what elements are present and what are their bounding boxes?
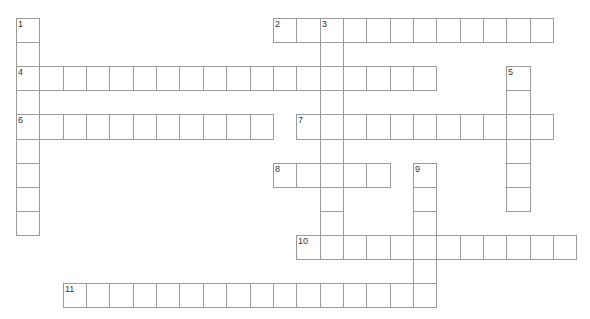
letter-input[interactable]	[344, 19, 366, 42]
letter-input[interactable]	[87, 284, 109, 307]
letter-input[interactable]	[251, 67, 273, 90]
crossword-cell[interactable]	[250, 114, 274, 140]
letter-input[interactable]	[180, 115, 203, 139]
letter-input[interactable]	[344, 67, 366, 90]
letter-input[interactable]	[531, 236, 553, 259]
crossword-cell[interactable]: 9	[413, 163, 437, 188]
letter-input[interactable]	[134, 284, 156, 307]
letter-input[interactable]	[274, 19, 296, 42]
crossword-cell[interactable]	[506, 90, 531, 115]
letter-input[interactable]	[367, 236, 390, 259]
crossword-cell[interactable]	[156, 114, 180, 140]
crossword-cell[interactable]	[250, 66, 274, 91]
letter-input[interactable]	[17, 19, 39, 42]
crossword-cell[interactable]	[86, 66, 110, 91]
letter-input[interactable]	[554, 236, 576, 259]
crossword-cell[interactable]	[390, 18, 414, 43]
crossword-cell[interactable]	[39, 66, 64, 91]
crossword-cell[interactable]	[16, 187, 40, 212]
letter-input[interactable]	[227, 67, 250, 90]
letter-input[interactable]	[507, 67, 530, 90]
letter-input[interactable]	[367, 67, 390, 90]
crossword-cell[interactable]	[436, 114, 461, 140]
letter-input[interactable]	[64, 115, 86, 139]
letter-input[interactable]	[414, 67, 436, 90]
crossword-cell[interactable]	[413, 66, 437, 91]
crossword-cell[interactable]	[320, 211, 344, 236]
letter-input[interactable]	[507, 91, 530, 114]
crossword-cell[interactable]	[226, 283, 251, 308]
crossword-cell[interactable]	[16, 139, 40, 164]
letter-input[interactable]	[251, 115, 273, 139]
letter-input[interactable]	[344, 236, 366, 259]
letter-input[interactable]	[344, 115, 366, 139]
letter-input[interactable]	[17, 43, 39, 66]
letter-input[interactable]	[134, 115, 156, 139]
crossword-cell[interactable]	[413, 211, 437, 236]
letter-input[interactable]	[17, 140, 39, 163]
crossword-cell[interactable]	[506, 187, 531, 212]
letter-input[interactable]	[297, 19, 320, 42]
crossword-cell[interactable]	[273, 66, 297, 91]
crossword-cell[interactable]	[133, 114, 157, 140]
crossword-cell[interactable]	[436, 235, 461, 260]
letter-input[interactable]	[17, 164, 39, 187]
crossword-cell[interactable]	[226, 66, 251, 91]
letter-input[interactable]	[437, 115, 460, 139]
crossword-cell[interactable]	[273, 283, 297, 308]
letter-input[interactable]	[297, 164, 320, 187]
crossword-cell[interactable]	[156, 283, 180, 308]
crossword-cell[interactable]	[203, 66, 227, 91]
crossword-cell[interactable]	[413, 259, 437, 284]
crossword-cell[interactable]	[343, 66, 367, 91]
letter-input[interactable]	[87, 67, 109, 90]
letter-input[interactable]	[507, 19, 530, 42]
letter-input[interactable]	[157, 67, 179, 90]
crossword-cell[interactable]	[436, 18, 461, 43]
letter-input[interactable]	[87, 115, 109, 139]
letter-input[interactable]	[321, 236, 343, 259]
letter-input[interactable]	[344, 164, 366, 187]
crossword-cell[interactable]	[320, 42, 344, 67]
crossword-cell[interactable]	[320, 187, 344, 212]
letter-input[interactable]	[110, 115, 133, 139]
crossword-cell[interactable]	[483, 18, 507, 43]
crossword-cell[interactable]	[296, 18, 321, 43]
letter-input[interactable]	[414, 212, 436, 235]
letter-input[interactable]	[391, 236, 413, 259]
letter-input[interactable]	[461, 19, 483, 42]
letter-input[interactable]	[414, 164, 436, 187]
crossword-cell[interactable]	[413, 114, 437, 140]
letter-input[interactable]	[321, 91, 343, 114]
letter-input[interactable]	[507, 188, 530, 211]
crossword-cell[interactable]	[553, 235, 577, 260]
crossword-cell[interactable]	[133, 66, 157, 91]
crossword-cell[interactable]	[390, 114, 414, 140]
letter-input[interactable]	[17, 91, 39, 114]
crossword-cell[interactable]	[39, 114, 64, 140]
letter-input[interactable]	[321, 67, 343, 90]
letter-input[interactable]	[507, 236, 530, 259]
letter-input[interactable]	[321, 115, 343, 139]
letter-input[interactable]	[227, 115, 250, 139]
letter-input[interactable]	[367, 284, 390, 307]
letter-input[interactable]	[321, 284, 343, 307]
letter-input[interactable]	[297, 284, 320, 307]
crossword-cell[interactable]	[343, 163, 367, 188]
crossword-cell[interactable]	[343, 18, 367, 43]
crossword-cell[interactable]	[320, 114, 344, 140]
crossword-cell[interactable]	[179, 283, 204, 308]
crossword-cell[interactable]	[506, 114, 531, 140]
letter-input[interactable]	[17, 188, 39, 211]
crossword-cell[interactable]	[109, 66, 134, 91]
crossword-cell[interactable]	[413, 235, 437, 260]
letter-input[interactable]	[391, 115, 413, 139]
letter-input[interactable]	[321, 212, 343, 235]
letter-input[interactable]	[157, 115, 179, 139]
letter-input[interactable]	[274, 164, 296, 187]
crossword-cell[interactable]	[250, 283, 274, 308]
crossword-cell[interactable]	[320, 283, 344, 308]
crossword-cell[interactable]	[413, 283, 437, 308]
crossword-cell[interactable]	[366, 163, 391, 188]
letter-input[interactable]	[437, 236, 460, 259]
